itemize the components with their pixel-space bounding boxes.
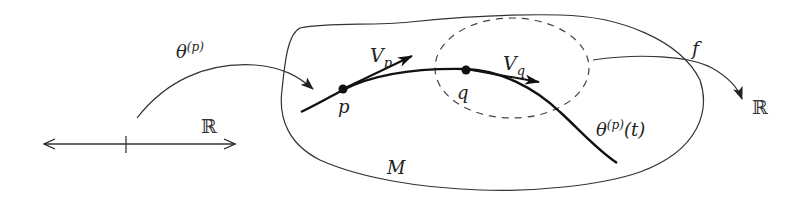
function-arrow-tail (593, 56, 746, 100)
manifold-label: M (386, 157, 406, 178)
function-arrow-main (593, 56, 742, 99)
real-line (44, 136, 235, 153)
domain-real-label: ℝ (201, 115, 217, 137)
vector-q-label: Vq (503, 52, 525, 78)
manifold-diagram: ℝ θ(p) M p q Vp Vq θ(p)(t) f ℝ (0, 0, 804, 199)
curve-label: θ(p)(t) (596, 118, 645, 140)
function-label: f (690, 37, 702, 59)
curve-map-arrow (137, 65, 313, 118)
point-q (462, 66, 471, 75)
function-arrow (593, 56, 747, 100)
point-p-label: p (338, 96, 350, 117)
codomain-real-label: ℝ (752, 96, 768, 118)
point-q-label: q (457, 82, 469, 103)
curve-map-label: θ(p) (176, 40, 204, 62)
vector-p-label: Vp (370, 44, 393, 70)
point-p (339, 85, 348, 94)
